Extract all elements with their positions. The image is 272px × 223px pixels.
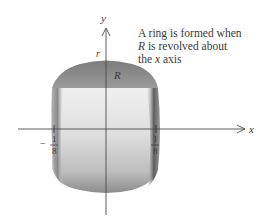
region-label: R	[113, 69, 121, 81]
caption-line-1: A ring is formed when	[138, 27, 241, 40]
figure-caption: A ring is formed when R is revolved abou…	[138, 27, 241, 66]
caption-line-3: the x axis	[138, 53, 241, 66]
caption-line-2: R is revolved about	[138, 40, 241, 53]
tick-sign: −	[40, 138, 46, 149]
ring-body	[52, 88, 158, 193]
tick-denominator: 8	[52, 146, 57, 156]
radius-label: r	[96, 48, 100, 59]
tick-numerator: 1	[52, 134, 57, 144]
tick-numerator: 1	[153, 134, 158, 144]
tick-denominator: 8	[153, 146, 158, 156]
tick-label-neg-eighth: − 1 8	[40, 134, 58, 156]
x-axis-label: x	[248, 123, 254, 135]
y-axis-label: y	[100, 12, 106, 24]
